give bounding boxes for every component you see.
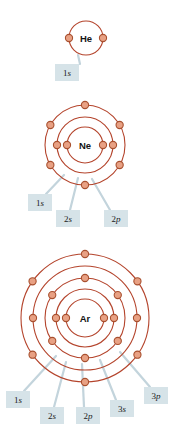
electron-neon-2s-1	[53, 141, 60, 148]
atom-helium: He1s	[55, 21, 107, 81]
electron-argon-3p-5	[29, 351, 36, 358]
electron-argon-2p-3	[114, 337, 121, 344]
nucleus-symbol-argon: Ar	[80, 313, 91, 324]
electron-argon-3s-1	[29, 314, 36, 321]
electron-argon-3p-6	[29, 278, 36, 285]
nucleus-symbol-neon: Ne	[79, 140, 91, 151]
electron-argon-2s-2	[110, 314, 117, 321]
electron-argon-2p-5	[49, 337, 56, 344]
electron-argon-3p-4	[81, 378, 88, 385]
electron-argon-3p-1	[81, 250, 88, 257]
electron-neon-2s-2	[109, 141, 116, 148]
leader-line-helium-1s	[78, 55, 80, 64]
electron-argon-2p-6	[49, 291, 56, 298]
electron-argon-2p-1	[81, 274, 88, 281]
electron-argon-1s-2	[100, 314, 107, 321]
orbital-label-argon-2p: 2p	[84, 411, 94, 421]
atom-neon: Ne1s2s2p	[28, 101, 128, 227]
orbital-label-neon-2s: 2s	[64, 214, 73, 224]
electron-argon-2p-2	[114, 291, 121, 298]
orbital-label-argon-1s: 1s	[14, 395, 23, 405]
electron-neon-2p-5	[47, 161, 54, 168]
orbital-label-helium-1s: 1s	[63, 68, 72, 78]
electron-helium-1s-2	[99, 34, 106, 41]
electron-argon-2s-1	[52, 314, 59, 321]
orbital-label-neon-1s: 1s	[36, 198, 45, 208]
leader-line-argon-1s	[24, 356, 56, 391]
electron-argon-3p-3	[134, 351, 141, 358]
electron-neon-2p-1	[81, 101, 88, 108]
atomic-shell-svg: He1sNe1s2s2pAr1s2s2p3s3p	[0, 0, 172, 431]
electron-neon-2p-3	[116, 161, 123, 168]
electron-neon-1s-1	[63, 141, 70, 148]
electron-neon-1s-2	[99, 141, 106, 148]
electron-neon-2p-2	[116, 121, 123, 128]
electron-argon-2p-4	[81, 354, 88, 361]
orbital-label-neon-2p: 2p	[112, 214, 122, 224]
nucleus-symbol-helium: He	[80, 33, 92, 44]
electron-helium-1s-1	[65, 34, 72, 41]
electron-neon-2p-4	[81, 181, 88, 188]
orbital-label-argon-2s: 2s	[48, 411, 57, 421]
electron-argon-1s-1	[62, 314, 69, 321]
atom-argon: Ar1s2s2p3s3p	[6, 250, 168, 424]
electron-argon-3s-2	[133, 314, 140, 321]
atomic-diagram-figure: He1sNe1s2s2pAr1s2s2p3s3p	[0, 0, 172, 431]
electron-argon-3p-2	[134, 278, 141, 285]
orbital-label-argon-3p: 3p	[152, 391, 162, 401]
leader-line-argon-2s	[54, 362, 66, 407]
orbital-label-argon-3s: 3s	[118, 404, 127, 414]
electron-neon-2p-6	[47, 121, 54, 128]
